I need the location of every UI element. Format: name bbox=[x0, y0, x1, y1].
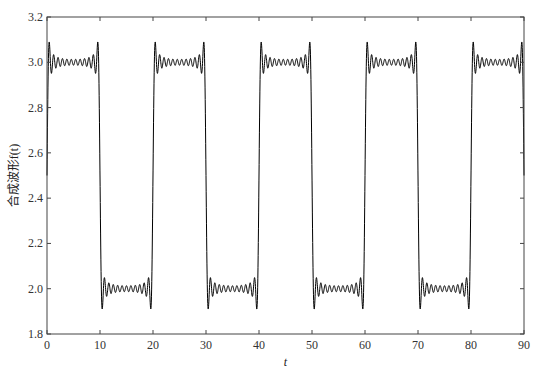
y-tick-label: 3.0 bbox=[28, 55, 43, 69]
x-tick-label: 20 bbox=[147, 338, 159, 352]
y-tick-label: 2.0 bbox=[28, 282, 43, 296]
y-tick-label: 2.2 bbox=[28, 236, 43, 250]
x-tick-label: 70 bbox=[412, 338, 424, 352]
x-tick-label: 50 bbox=[306, 338, 318, 352]
waveform-line bbox=[47, 42, 524, 309]
x-axis-label: t bbox=[284, 355, 288, 369]
x-tick-label: 60 bbox=[359, 338, 371, 352]
y-tick-label: 2.8 bbox=[28, 101, 43, 115]
y-axis-label: 合成波形f(t) bbox=[6, 144, 21, 207]
x-tick-label: 90 bbox=[518, 338, 530, 352]
plot-area bbox=[47, 17, 524, 334]
chart-canvas: 0102030405060708090 1.82.02.22.42.62.83.… bbox=[0, 0, 541, 371]
x-tick-label: 40 bbox=[253, 338, 265, 352]
x-axis-ticks: 0102030405060708090 bbox=[44, 17, 530, 352]
x-tick-label: 80 bbox=[465, 338, 477, 352]
x-tick-label: 10 bbox=[94, 338, 106, 352]
x-tick-label: 30 bbox=[200, 338, 212, 352]
y-tick-label: 2.4 bbox=[28, 191, 43, 205]
y-tick-label: 2.6 bbox=[28, 146, 43, 160]
y-tick-label: 3.2 bbox=[28, 10, 43, 24]
y-tick-label: 1.8 bbox=[28, 327, 43, 341]
y-axis-ticks: 1.82.02.22.42.62.83.03.2 bbox=[28, 10, 524, 341]
x-tick-label: 0 bbox=[44, 338, 50, 352]
